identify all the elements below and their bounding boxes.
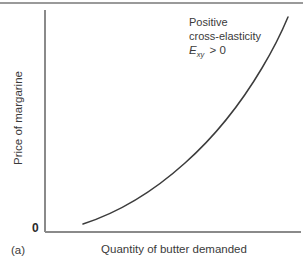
elasticity-subscript: xy [197, 50, 205, 59]
elasticity-relation: > 0 [210, 44, 226, 56]
annotation-line-1: Positive [189, 16, 261, 30]
curve-annotation: Positive cross-elasticity Exy> 0 [189, 16, 261, 62]
origin-tick-label: 0 [32, 221, 39, 235]
cross-elasticity-figure: Price of margarine Quantity of butter de… [0, 0, 303, 266]
y-axis-title: Price of margarine [8, 18, 28, 218]
annotation-formula: Exy> 0 [189, 44, 261, 62]
elasticity-symbol: E [189, 44, 197, 56]
x-axis-title-label: Quantity of butter demanded [45, 243, 303, 255]
annotation-line-2: cross-elasticity [189, 30, 261, 44]
y-axis-title-label: Price of margarine [12, 71, 24, 165]
panel-caption-label: (a) [11, 244, 25, 256]
